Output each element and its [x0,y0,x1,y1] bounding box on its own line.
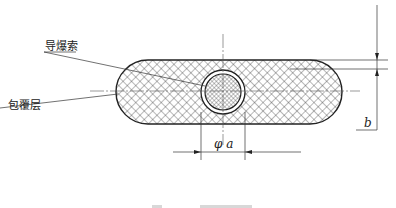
cross-section-diagram [0,0,396,208]
label-diameter: φ a [214,137,233,151]
label-coating-layer: 包覆层 [8,96,41,112]
label-detonating-cord: 导爆索 [45,37,78,53]
label-thickness: b [364,116,372,130]
figure-caption-partial [152,205,252,208]
